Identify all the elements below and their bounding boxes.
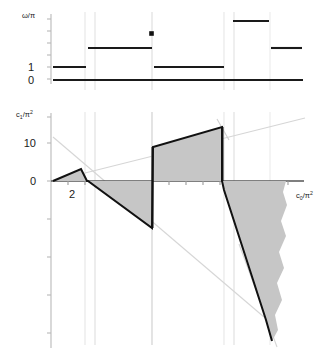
lobe-4-shade [222,181,287,341]
lower-x-axis-label: c0/π2 [296,190,313,201]
figure-root: ω/π 1 0 c1/π2 [0,0,334,357]
lower-y-ticks [47,117,51,333]
upper-ytick-label-0: 0 [28,74,34,86]
upper-panel: ω/π 1 0 [22,11,303,86]
lower-ytick-label-10: 10 [24,137,36,149]
lower-ytick-label-0: 0 [30,175,36,187]
lower-xtick-label-2: 2 [69,188,75,200]
upper-step-branches [53,21,303,80]
shaded-regions [53,127,287,341]
upper-y-ticks [47,19,51,79]
lower-y-axis-label: c1/π2 [16,109,33,120]
isolated-point-marker [149,31,154,36]
lower-panel: c1/π2 10 0 [16,109,313,348]
upper-ytick-label-1: 1 [28,61,34,73]
upper-y-axis-label: ω/π [22,11,35,20]
figure-svg: ω/π 1 0 c1/π2 [0,0,334,357]
lobe-3-shade [153,127,222,181]
